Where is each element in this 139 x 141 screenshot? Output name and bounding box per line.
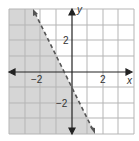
tick-x-neg2: −2 — [31, 74, 42, 85]
tick-y-2: 2 — [63, 35, 69, 46]
tick-y-neg2: −2 — [56, 98, 67, 109]
coordinate-graph: y x −2 2 2 −2 — [0, 0, 139, 141]
y-axis-label: y — [77, 4, 82, 15]
tick-x-2: 2 — [100, 74, 106, 85]
graph-canvas — [0, 0, 139, 141]
x-axis-label: x — [127, 75, 132, 86]
